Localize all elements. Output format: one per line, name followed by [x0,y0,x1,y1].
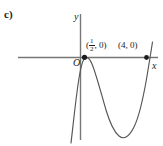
root-half-separator: , 0) [95,40,107,50]
figure-container: c) y x O (12, 0) (4, 0) [0,0,163,146]
cubic-graph-svg [0,0,163,146]
root-marker-half [82,55,87,60]
fraction-one-half: 12 [89,38,95,53]
root-marker-four [144,55,149,60]
y-axis-label: y [74,12,78,22]
point-label-root-half: (12, 0) [86,38,107,53]
origin-label: O [73,58,80,68]
fraction-denominator: 2 [89,46,95,53]
fraction-numerator: 1 [89,38,95,45]
x-axis-label: x [152,61,156,71]
point-label-root-four: (4, 0) [118,41,138,50]
